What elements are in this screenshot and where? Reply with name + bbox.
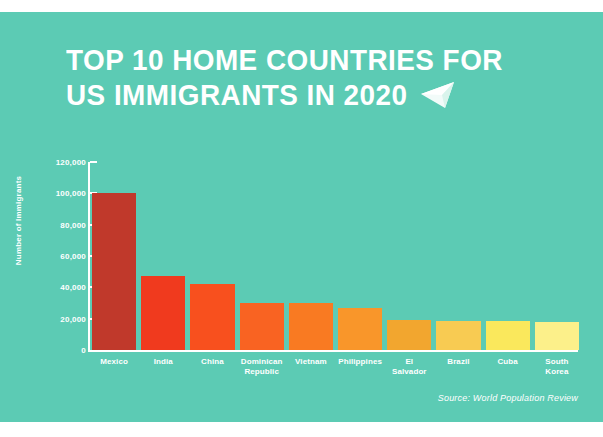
x-tick-label: Mexico [92,357,136,367]
x-tick-label: Philippines [338,357,382,367]
x-tick-label-line: Mexico [92,357,136,367]
bar[interactable] [486,321,530,350]
bar[interactable] [240,303,284,350]
y-tick-label: 60,000 [38,252,86,261]
x-tick-label: Vietnam [289,357,333,367]
y-tick-label: 120,000 [38,158,86,167]
bar[interactable] [289,303,333,350]
x-tick-label: India [141,357,185,367]
bar-column[interactable] [387,144,431,352]
y-tick-label: 40,000 [38,283,86,292]
source-note: Source: World Population Review [438,393,578,403]
x-tick-label-line: South [535,357,579,367]
x-tick-label-line: Philippines [338,357,382,367]
bar-column[interactable] [190,144,234,352]
bar[interactable] [190,284,234,350]
plot-area: Number of Immigrants 120,000100,00080,00… [0,144,603,359]
x-tick-label: SouthKorea [535,357,579,377]
x-tick-label-line: India [141,357,185,367]
x-tick-label-line: El [387,357,431,367]
bar[interactable] [436,321,480,350]
x-axis-category-labels: MexicoIndiaChinaDominicanRepublicVietnam… [92,357,584,389]
x-tick-label: Cuba [486,357,530,367]
bar-column[interactable] [92,144,136,352]
x-tick-label-line: Republic [240,367,284,377]
x-tick-label-line: Vietnam [289,357,333,367]
x-tick-label: ElSalvador [387,357,431,377]
x-tick-label-line: Brazil [436,357,480,367]
x-tick-label: China [190,357,234,367]
x-tick-label-line: China [190,357,234,367]
bar-column[interactable] [535,144,579,352]
bar[interactable] [92,193,136,350]
x-tick-label-line: Salvador [387,367,431,377]
title-line-1: TOP 10 HOME COUNTRIES FOR [66,42,503,77]
x-tick-label-line: Dominican [240,357,284,367]
bar[interactable] [338,308,382,350]
x-tick-label-line: Cuba [486,357,530,367]
bar-column[interactable] [289,144,333,352]
bar-column[interactable] [141,144,185,352]
bar-column[interactable] [338,144,382,352]
y-axis-title: Number of Immigrants [14,156,23,286]
bar-column[interactable] [240,144,284,352]
bar-series [92,144,584,352]
bar[interactable] [387,320,431,350]
y-tick-label: 100,000 [38,189,86,198]
bar-column[interactable] [436,144,480,352]
title-row-2: US IMMIGRANTS IN 2020 [66,77,536,112]
y-tick-label: 0 [38,346,86,355]
page-title: TOP 10 HOME COUNTRIES FOR US IMMIGRANTS … [66,42,536,112]
bar[interactable] [535,322,579,350]
y-axis-tick-labels: 120,000100,00080,00060,00040,00020,0000 [38,144,86,359]
infographic-poster: TOP 10 HOME COUNTRIES FOR US IMMIGRANTS … [0,0,603,437]
title-line-2: US IMMIGRANTS IN 2020 [66,77,408,112]
bar[interactable] [141,276,185,350]
y-tick-label: 80,000 [38,220,86,229]
chart-canvas: TOP 10 HOME COUNTRIES FOR US IMMIGRANTS … [0,12,603,422]
paper-plane-icon [420,80,458,110]
bar-column[interactable] [486,144,530,352]
x-tick-label: Brazil [436,357,480,367]
x-tick-label-line: Korea [535,367,579,377]
y-axis-line [88,162,90,352]
y-tick-label: 20,000 [38,314,86,323]
x-tick-label: DominicanRepublic [240,357,284,377]
